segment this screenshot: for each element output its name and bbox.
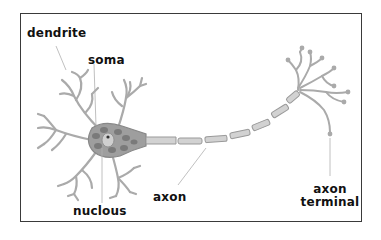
dendrites-lower-left xyxy=(58,152,96,200)
soma-body xyxy=(88,123,146,157)
label-axon-terminal-line2: terminal xyxy=(298,196,362,209)
dendrites-left xyxy=(38,114,92,150)
label-dendrite: dendrite xyxy=(27,27,86,40)
leader-lines xyxy=(56,46,330,203)
dendrites-upper-right xyxy=(112,78,146,128)
axon-terminals xyxy=(288,48,348,132)
label-axon-terminal: axon terminal xyxy=(298,183,362,209)
axon xyxy=(146,90,300,144)
label-axon: axon xyxy=(153,191,186,204)
label-nucleus: nuclous xyxy=(73,205,127,218)
dendrites-lower-right xyxy=(110,154,140,198)
nucleus xyxy=(102,133,114,147)
label-soma: soma xyxy=(88,54,125,67)
dendrites-upper-left xyxy=(60,70,100,130)
